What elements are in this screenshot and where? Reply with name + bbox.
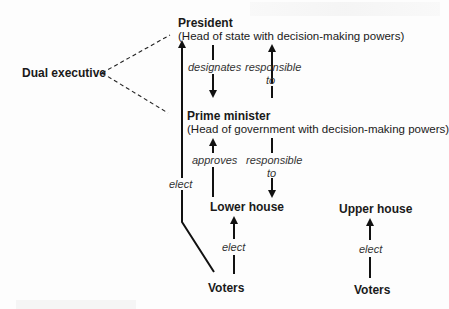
president-title: President: [178, 16, 233, 30]
prime-minister-subtitle: (Head of government with decision-making…: [187, 123, 449, 135]
dual-executive-label: Dual executive: [22, 66, 106, 80]
designates-label: designates: [188, 61, 241, 73]
elect-lower-label: elect: [222, 241, 245, 253]
lower-house-label: Lower house: [210, 200, 284, 214]
responsible-label-top: responsible: [245, 61, 301, 73]
elect-upper-label: elect: [359, 243, 382, 255]
upper-house-label: Upper house: [339, 202, 412, 216]
prime-minister-title: Prime minister: [187, 109, 270, 123]
responsible-to-label-top: to: [266, 74, 275, 86]
dual-executive-bracket: [102, 35, 170, 113]
president-subtitle: (Head of state with decision-making powe…: [178, 30, 404, 42]
voters-left-label: Voters: [208, 281, 244, 295]
elect-president-label: elect: [168, 178, 193, 190]
voters-right-label: Voters: [354, 283, 390, 297]
responsible-label-bottom: responsible: [246, 154, 302, 166]
responsible-to-label-bottom: to: [267, 167, 276, 179]
approves-label: approves: [192, 154, 237, 166]
